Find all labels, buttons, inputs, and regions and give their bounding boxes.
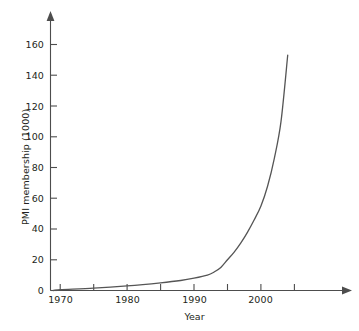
y-tick-label-140: 140 (6, 70, 44, 81)
chart-plot-area (0, 0, 359, 331)
x-tick-label-2000: 2000 (238, 294, 283, 305)
x-axis-title: Year (172, 311, 217, 322)
y-axis (47, 11, 55, 291)
y-tick-label-160: 160 (6, 39, 44, 50)
x-tick-label-1970: 1970 (38, 294, 83, 305)
y-tick-label-20: 20 (6, 254, 44, 265)
y-axis-ticks (51, 45, 58, 291)
chart-container: 0 20 40 60 80 100 120 140 160 1970 1980 … (0, 0, 359, 331)
x-axis-ticks (60, 284, 294, 291)
y-axis-title: PMI membership (1000) (20, 109, 31, 225)
x-tick-label-1990: 1990 (172, 294, 217, 305)
data-series-line (54, 55, 288, 290)
x-tick-label-1980: 1980 (105, 294, 150, 305)
